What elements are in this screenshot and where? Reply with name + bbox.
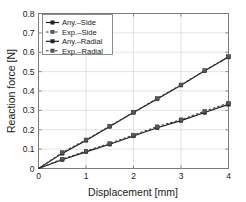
legend-marker-sample bbox=[51, 40, 54, 43]
x-tick-label: 2 bbox=[131, 171, 136, 181]
legend-marker-sample bbox=[51, 30, 54, 33]
x-axis-title: Displacement [mm] bbox=[88, 186, 178, 198]
legend-item-label: Any.–Side bbox=[62, 18, 96, 27]
data-point-marker bbox=[203, 109, 207, 113]
data-point-marker bbox=[60, 151, 64, 155]
y-tick-label: 0.2 bbox=[23, 125, 35, 135]
x-tick-labels: 01234 bbox=[36, 171, 231, 181]
legend-item-label: Any.–Radial bbox=[62, 37, 103, 46]
y-tick-labels: 00.10.20.30.40.50.60.70.8 bbox=[23, 9, 35, 174]
y-tick-label: 0.1 bbox=[23, 144, 35, 154]
x-tick-label: 3 bbox=[179, 171, 184, 181]
y-tick-label: 0.3 bbox=[23, 105, 35, 115]
legend-marker-sample bbox=[51, 49, 54, 52]
y-tick-label: 0.6 bbox=[23, 47, 35, 57]
legend: Any.–SideExp.–SideAny.–RadialExp.–Radial bbox=[43, 15, 113, 56]
data-point-marker bbox=[132, 110, 136, 114]
legend-marker-sample bbox=[51, 21, 54, 24]
data-point-marker bbox=[179, 118, 183, 122]
data-point-marker bbox=[108, 142, 112, 146]
data-point-marker bbox=[227, 101, 231, 105]
data-point-marker bbox=[84, 149, 88, 153]
data-point-marker bbox=[155, 125, 159, 129]
x-tick-label: 0 bbox=[36, 171, 41, 181]
data-point-marker bbox=[60, 157, 64, 161]
y-axis-title: Reaction force [N] bbox=[5, 49, 17, 133]
y-tick-label: 0.7 bbox=[23, 28, 35, 38]
data-point-marker bbox=[132, 133, 136, 137]
data-point-marker bbox=[155, 97, 159, 101]
reaction-force-vs-displacement-chart: 01234 00.10.20.30.40.50.60.70.8 Displace… bbox=[0, 0, 246, 202]
y-tick-label: 0 bbox=[30, 164, 35, 174]
data-point-marker bbox=[84, 138, 88, 142]
data-point-marker bbox=[227, 55, 231, 59]
x-tick-label: 1 bbox=[84, 171, 89, 181]
y-tick-label: 0.8 bbox=[23, 9, 35, 19]
legend-item-label: Exp.–Radial bbox=[62, 47, 103, 56]
x-tick-label: 4 bbox=[226, 171, 231, 181]
figure-container: 01234 00.10.20.30.40.50.60.70.8 Displace… bbox=[0, 0, 246, 202]
data-point-marker bbox=[179, 83, 183, 87]
y-tick-label: 0.5 bbox=[23, 67, 35, 77]
y-tick-label: 0.4 bbox=[23, 86, 35, 96]
data-point-marker bbox=[203, 69, 207, 73]
data-point-marker bbox=[108, 124, 112, 128]
legend-item-label: Exp.–Side bbox=[62, 28, 97, 37]
